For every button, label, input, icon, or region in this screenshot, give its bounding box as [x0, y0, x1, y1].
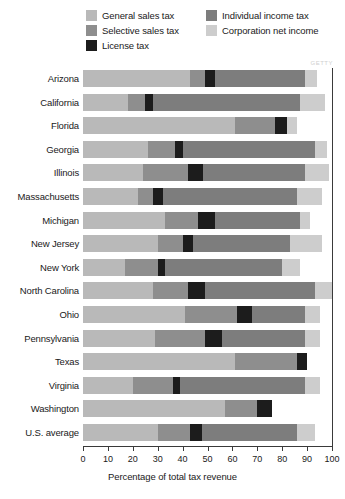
- y-axis-label: Arizona: [0, 70, 79, 87]
- bar-segment: [315, 141, 327, 158]
- bar-segment: [133, 377, 173, 394]
- x-axis-tick: [232, 446, 233, 451]
- bar-segment: [215, 70, 305, 87]
- y-axis-label: New York: [0, 259, 79, 276]
- legend-item-general-sales-tax: General sales tax: [86, 10, 206, 21]
- y-axis-label: Michigan: [0, 212, 79, 229]
- legend-label-general-sales-tax: General sales tax: [102, 11, 174, 21]
- bar-segment: [175, 141, 182, 158]
- bar-segment: [148, 141, 175, 158]
- bar-segment: [83, 306, 185, 323]
- bar-segment: [275, 117, 287, 134]
- bar-segment: [180, 377, 305, 394]
- bar-segment: [297, 188, 322, 205]
- bar-segment: [235, 353, 297, 370]
- y-axis-label: Ohio: [0, 306, 79, 323]
- y-axis-label: Texas: [0, 353, 79, 370]
- x-axis-tick: [208, 446, 209, 451]
- bar-segment: [282, 259, 299, 276]
- legend-swatch-license-tax: [86, 40, 97, 51]
- legend-item-license-tax: License tax: [86, 40, 206, 51]
- bar-segment: [297, 353, 307, 370]
- bar-segment: [83, 377, 133, 394]
- y-axis-label: Florida: [0, 117, 79, 134]
- bar-segment: [183, 235, 193, 252]
- y-axis-label: Virginia: [0, 377, 79, 394]
- bar-segment: [83, 235, 158, 252]
- bar-segment: [165, 259, 282, 276]
- bar-segment: [163, 188, 297, 205]
- bar-segment: [235, 117, 275, 134]
- bar-segment: [125, 259, 157, 276]
- bar-segment: [193, 235, 290, 252]
- bar-segment: [173, 377, 180, 394]
- x-axis-title: Percentage of total tax revenue: [0, 471, 345, 482]
- bar-row: [83, 306, 320, 323]
- bar-segment: [290, 235, 322, 252]
- bar-row: [83, 164, 329, 181]
- bar-segment: [300, 94, 325, 111]
- bar-segment: [203, 164, 305, 181]
- bar-row: [83, 400, 272, 417]
- y-axis-label: Massachusetts: [0, 188, 79, 205]
- bar-segment: [252, 306, 304, 323]
- bar-segment: [83, 117, 235, 134]
- bar-segment: [83, 164, 143, 181]
- bar-row: [83, 212, 310, 229]
- bar-segment: [190, 70, 205, 87]
- bar-row: [83, 424, 315, 441]
- legend-item-corporation-net-income: Corporation net income: [206, 25, 336, 36]
- legend-swatch-general-sales-tax: [86, 10, 97, 21]
- bar-segment: [185, 306, 237, 323]
- bar-segment: [155, 330, 205, 347]
- bar-row: [83, 117, 297, 134]
- x-axis-tick: [158, 446, 159, 451]
- bar-segment: [83, 400, 225, 417]
- bar-segment: [83, 259, 125, 276]
- plot-area: [83, 68, 332, 446]
- bar-segment: [225, 400, 257, 417]
- bar-segment: [143, 164, 188, 181]
- y-axis-label: California: [0, 94, 79, 111]
- bar-segment: [145, 94, 152, 111]
- bar-segment: [158, 259, 165, 276]
- bar-segment: [315, 282, 332, 299]
- bar-segment: [198, 212, 215, 229]
- bar-segment: [287, 117, 297, 134]
- bar-segment: [183, 141, 315, 158]
- bar-segment: [128, 94, 145, 111]
- x-axis-tick: [83, 446, 84, 451]
- bar-row: [83, 235, 322, 252]
- bar-segment: [83, 353, 235, 370]
- x-axis-tick: [332, 446, 333, 451]
- bar-segment: [138, 188, 153, 205]
- y-axis-label: Washington: [0, 400, 79, 417]
- bar-segment: [202, 424, 297, 441]
- watermark: GETTY: [310, 60, 333, 66]
- bar-segment: [305, 377, 320, 394]
- bar-segment: [153, 188, 163, 205]
- bar-segment: [205, 282, 315, 299]
- chart-legend: General sales tax Individual income tax …: [86, 8, 336, 53]
- x-axis-tick: [183, 446, 184, 451]
- bar-segment: [83, 188, 138, 205]
- legend-item-selective-sales-tax: Selective sales tax: [86, 25, 206, 36]
- bar-row: [83, 188, 322, 205]
- legend-swatch-corporation-net-income: [206, 25, 217, 36]
- bar-row: [83, 141, 327, 158]
- bar-segment: [305, 164, 330, 181]
- legend-label-selective-sales-tax: Selective sales tax: [102, 26, 179, 36]
- y-axis-label: Illinois: [0, 164, 79, 181]
- x-axis-tick-label: 100: [317, 453, 345, 465]
- bar-segment: [188, 164, 203, 181]
- y-axis-label: U.S. average: [0, 424, 79, 441]
- bar-segment: [297, 424, 314, 441]
- x-axis-tick: [307, 446, 308, 451]
- bar-segment: [83, 70, 190, 87]
- bar-row: [83, 70, 317, 87]
- y-axis-label: Pennsylvania: [0, 330, 79, 347]
- bar-segment: [83, 424, 158, 441]
- y-axis-label: North Carolina: [0, 282, 79, 299]
- legend-swatch-individual-income-tax: [206, 10, 217, 21]
- y-axis-labels: ArizonaCaliforniaFloridaGeorgiaIllinoisM…: [0, 68, 79, 446]
